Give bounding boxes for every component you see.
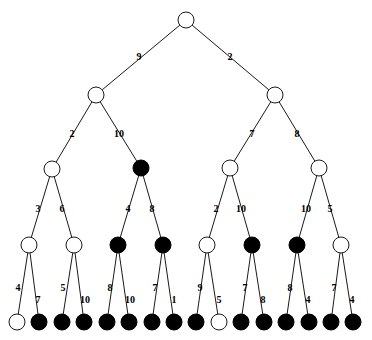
edge-weight-label: 1 — [172, 295, 177, 305]
edge-weight-label: 5 — [61, 283, 66, 293]
binary-tree-figure: 92210783648210105475108107195788474 — [0, 0, 372, 340]
tree-node-open — [88, 87, 104, 103]
tree-node-filled — [76, 314, 92, 330]
edge-weight-label: 5 — [328, 204, 333, 214]
edge-weight-label: 9 — [137, 52, 142, 62]
tree-node-filled — [233, 314, 249, 330]
tree-edge — [342, 252, 352, 314]
edge-weight-label: 10 — [80, 295, 90, 305]
edge-weight-label: 9 — [198, 283, 203, 293]
tree-node-filled — [244, 237, 260, 253]
edge-weight-label: 3 — [36, 204, 41, 214]
edge-weight-label: 8 — [261, 295, 266, 305]
tree-edge — [164, 252, 173, 314]
tree-node-filled — [188, 314, 204, 330]
tree-node-open — [66, 237, 82, 253]
tree-edge — [30, 252, 38, 314]
edge-weight-label: 10 — [236, 204, 246, 214]
tree-node-filled — [144, 314, 160, 330]
tree-node-filled — [256, 314, 272, 330]
tree-edge — [75, 252, 83, 314]
edge-weight-label: 8 — [108, 283, 113, 293]
tree-node-open — [311, 160, 327, 176]
edge-weight-label: 2 — [214, 204, 219, 214]
tree-edge — [208, 252, 218, 314]
tree-node-open — [333, 237, 349, 253]
edge-weight-label: 2 — [70, 129, 75, 139]
tree-node-filled — [289, 237, 305, 253]
edge-weight-label: 8 — [295, 129, 300, 139]
tree-node-filled — [155, 237, 171, 253]
tree-edge — [119, 252, 128, 314]
edge-weight-label: 2 — [228, 52, 233, 62]
tree-node-open — [178, 12, 194, 28]
edge-weight-label: 4 — [306, 295, 311, 305]
edge-weight-label: 8 — [288, 283, 293, 293]
tree-edge — [298, 252, 308, 314]
tree-node-filled — [54, 314, 70, 330]
tree-node-open — [21, 237, 37, 253]
edge-weight-label: 10 — [125, 295, 135, 305]
tree-node-open — [267, 87, 283, 103]
tree-node-open — [44, 161, 60, 177]
edge-weight-label: 7 — [243, 283, 248, 293]
edge-weight-label: 8 — [150, 204, 155, 214]
edge-weight-label: 7 — [332, 283, 337, 293]
edge-weight-label: 10 — [114, 129, 124, 139]
edge-weight-label: 7 — [250, 129, 255, 139]
edge-weight-label: 7 — [153, 283, 158, 293]
edge-weight-label: 6 — [60, 204, 65, 214]
edge-weight-label: 7 — [36, 295, 41, 305]
tree-node-filled — [121, 314, 137, 330]
tree-node-filled — [278, 314, 294, 330]
tree-node-open — [222, 160, 238, 176]
tree-node-open — [211, 314, 227, 330]
edge-weight-label: 4 — [350, 295, 355, 305]
tree-node-filled — [110, 237, 126, 253]
tree-node-filled — [166, 314, 182, 330]
tree-node-filled — [301, 314, 317, 330]
tree-node-filled — [323, 314, 339, 330]
tree-edge — [253, 252, 263, 314]
edge-weight-label: 10 — [301, 204, 311, 214]
edge-weight-label: 4 — [126, 204, 131, 214]
tree-graphics — [0, 0, 372, 340]
edges-group — [18, 25, 352, 315]
edge-weight-label: 5 — [217, 295, 222, 305]
tree-node-open — [199, 237, 215, 253]
edge-weight-label: 4 — [16, 283, 21, 293]
tree-node-open — [9, 314, 25, 330]
tree-node-filled — [99, 314, 115, 330]
tree-node-filled — [133, 160, 149, 176]
tree-node-filled — [345, 314, 361, 330]
tree-node-filled — [31, 314, 47, 330]
